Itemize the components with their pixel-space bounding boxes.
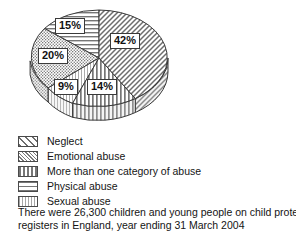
slice-label-physical: 15% bbox=[55, 18, 85, 34]
pie-chart-graphic: 42% 14% 9% 20% 15% bbox=[0, 0, 296, 130]
legend-label-more-than-one-category: More than one category of abuse bbox=[47, 165, 201, 177]
legend-swatch-stipple-dots-icon bbox=[18, 151, 38, 162]
slice-label-emotional: 20% bbox=[38, 48, 68, 64]
slice-label-sexual: 9% bbox=[54, 79, 78, 95]
legend-label-physical-abuse: Physical abuse bbox=[47, 180, 118, 192]
legend-label-neglect: Neglect bbox=[47, 135, 83, 147]
pie-chart-figure: 42% 14% 9% 20% 15% Neglect Emotional abu… bbox=[0, 0, 296, 233]
legend-swatch-diagonal-hatch-icon bbox=[18, 136, 38, 147]
legend-item-emotional-abuse: Emotional abuse bbox=[18, 149, 288, 163]
slice-label-morethanone: 14% bbox=[87, 79, 117, 95]
caption-line-2: registers in England, year ending 31 Mar… bbox=[18, 219, 290, 232]
legend-label-emotional-abuse: Emotional abuse bbox=[47, 150, 125, 162]
chart-legend: Neglect Emotional abuse More than one ca… bbox=[18, 134, 288, 209]
legend-swatch-horizontal-lines-icon bbox=[18, 181, 38, 192]
slice-label-neglect: 42% bbox=[110, 33, 140, 49]
pie-svg bbox=[0, 0, 296, 130]
legend-swatch-fine-vertical-lines-icon bbox=[18, 196, 38, 207]
legend-item-more-than-one-category: More than one category of abuse bbox=[18, 164, 288, 178]
legend-item-physical-abuse: Physical abuse bbox=[18, 179, 288, 193]
chart-caption: There were 26,300 children and young peo… bbox=[18, 206, 290, 232]
caption-line-1: There were 26,300 children and young peo… bbox=[18, 206, 290, 219]
legend-item-neglect: Neglect bbox=[18, 134, 288, 148]
legend-swatch-vertical-lines-icon bbox=[18, 166, 38, 177]
